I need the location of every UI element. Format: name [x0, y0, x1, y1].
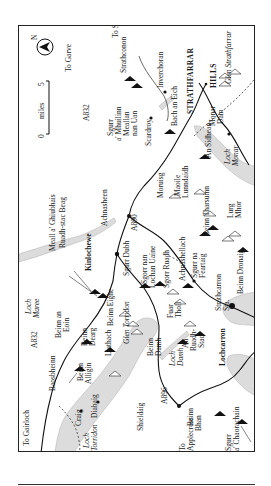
- label-loch-maree-2: Maree: [33, 299, 41, 318]
- label-a832-north: A832: [83, 104, 91, 121]
- label-meall-a-ghiubhais: Meall a' Ghiubhais: [49, 194, 57, 251]
- label-fuar-tholl-2: Tholl: [175, 302, 183, 318]
- label-an-ruadh-stac-3: Stac: [198, 335, 206, 348]
- label-sgurr-na-feartaig-2: Feartaig: [199, 253, 207, 278]
- peak-lurg-mhor-1: [229, 231, 241, 236]
- label-ruadh-stac-beag: Ruadh-stac Beag: [59, 197, 67, 248]
- peak-fuar-tholl: [182, 283, 194, 288]
- dot-monar-dam: [227, 132, 230, 135]
- label-loch-damh-2: Damh: [177, 348, 185, 366]
- label-loch-monar-2: Monar: [232, 146, 240, 166]
- label-baosbheinn: Baosbheinn: [49, 356, 57, 391]
- label-beinn-bhan-2: Bhan: [195, 415, 203, 431]
- label-beinn-damh-2: Damh: [155, 338, 163, 356]
- label-an-sidhean: An Sidhean: [205, 123, 213, 158]
- label-maoile-lunndaidh-2: Lunndaidh: [182, 166, 190, 199]
- label-a832-south: A832: [31, 331, 39, 348]
- label-to-gairloch: To Gairloch: [23, 410, 31, 446]
- label-glen-strathfarrar: Glen Strathfarrar: [225, 31, 233, 84]
- map-frame: N 0 miles 5 To Garve A832 To Struy Strat…: [18, 25, 255, 452]
- scale-bar: [46, 81, 49, 134]
- label-beinn-an-eoin-2: Eoin: [63, 318, 71, 332]
- label-sgurr-dubh: Sgurr Dubh: [123, 241, 131, 276]
- label-strathcarron-2: Sta.: [223, 300, 231, 311]
- label-lurg-mhor-2: Mhor: [235, 201, 243, 218]
- label-beinn-eighe: Beinn Eighe: [107, 289, 115, 326]
- scale-start: 0: [38, 134, 46, 138]
- peak-meallan-nan-uan: [131, 83, 143, 88]
- label-diabaig: Diabaig: [91, 394, 99, 418]
- peak-sgurr-a-mhuilinn: [124, 76, 136, 81]
- label-a896: A896: [161, 387, 169, 404]
- label-to-applecross-2: Applecross: [187, 417, 195, 451]
- label-achnasheen: Achnasheen: [101, 189, 109, 226]
- label-strathfarrar: STRATHFARRAR: [187, 48, 195, 114]
- label-beinn-dronaig: Beinn Dronaig: [237, 250, 245, 294]
- label-scardroy: Scardroy: [145, 119, 153, 146]
- label-craig: Craig: [75, 409, 83, 426]
- label-hills: HILLS: [210, 63, 218, 88]
- label-a890: A890: [131, 214, 139, 231]
- north-label: N: [31, 35, 39, 40]
- label-strathconon: Strathconon: [120, 37, 128, 73]
- scale-end: 5: [38, 82, 46, 86]
- north-arrow-icon: [37, 39, 53, 55]
- label-inverchoran: Inverchoran: [157, 52, 165, 88]
- label-beinn-alligin-2: Alligin: [85, 363, 93, 384]
- label-kinlochewe: Kinlochewe: [85, 234, 93, 272]
- label-glen-torridon: Glen Torridon: [123, 301, 131, 344]
- label-moruisg: Moruisg: [157, 173, 165, 198]
- label-sgorr-nan-lochan-uaine-2: Lochan Uaine: [149, 246, 157, 288]
- scale-unit: miles: [38, 103, 46, 119]
- label-achnashellach: Achnashellach: [179, 237, 187, 281]
- peak-an-ruadh-stac-o: [184, 321, 196, 326]
- label-beinn-dearg-2: Dearg: [89, 328, 97, 346]
- dot-to-garve: [205, 83, 208, 86]
- label-bac-an-eich: Bach an Eich: [171, 86, 179, 126]
- peak-bac-an-eich: [164, 129, 176, 134]
- label-shieldaig: Shieldaig: [137, 403, 145, 431]
- label-to-garve: To Garve: [65, 44, 73, 72]
- dot-shieldaig: [177, 404, 181, 408]
- loch-carron-lower: [227, 354, 255, 396]
- label-liathach: Liathach: [105, 330, 113, 356]
- dot-kinlochewe: [115, 252, 119, 256]
- peak-lurg-mhor-2: [222, 236, 234, 241]
- dot-achnashellach: [192, 279, 195, 282]
- label-beinn-tharsuinn: Beinn Tharsuinn: [203, 186, 211, 236]
- label-monar-dam-2: Dam: [217, 109, 225, 124]
- label-sgurr-a-chaorachain-2: a' Chaorachain: [233, 407, 241, 451]
- page-rule: [18, 484, 255, 485]
- label-lochcarron: Lochcarron: [219, 328, 227, 366]
- peak-sgorr-ruadh: [167, 289, 179, 294]
- label-loch-torridon-2: Torridon: [91, 425, 99, 451]
- label-meallan-nan-uan-2: nan Uan: [131, 111, 139, 136]
- dot-inverchoran: [163, 90, 166, 93]
- label-sgorr-ruadh: Sgorr Ruadh: [163, 250, 171, 288]
- peak-beinn-bhan: [214, 411, 226, 416]
